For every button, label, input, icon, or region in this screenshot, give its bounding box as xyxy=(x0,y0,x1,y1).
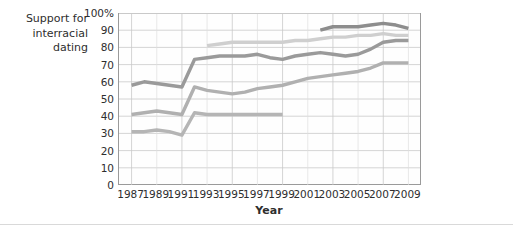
x-tick-label: 1987 xyxy=(117,188,144,200)
footer-rule xyxy=(0,224,513,225)
x-tick-label: 1997 xyxy=(243,188,270,200)
series-lines xyxy=(132,23,409,135)
series-line xyxy=(132,63,409,115)
y-tick-label: 100% xyxy=(62,8,114,19)
x-tick-label: 1995 xyxy=(218,188,245,200)
y-tick-label: 60 xyxy=(62,77,114,88)
y-tick-label: 90 xyxy=(62,25,114,36)
y-tick-label: 50 xyxy=(62,94,114,105)
x-tick-label: 2003 xyxy=(319,188,346,200)
series-line xyxy=(320,23,408,30)
legend xyxy=(424,0,513,227)
x-tick-label: 2009 xyxy=(394,188,421,200)
gridlines xyxy=(119,13,421,185)
plot-area xyxy=(118,13,420,185)
y-tick-label: 80 xyxy=(62,42,114,53)
x-tick-label: 2007 xyxy=(369,188,396,200)
x-tick-label: 1993 xyxy=(193,188,220,200)
x-tick-label: 2005 xyxy=(344,188,371,200)
x-axis-title: Year xyxy=(118,204,420,217)
y-tick-label: 70 xyxy=(62,60,114,71)
y-tick-label: 40 xyxy=(62,111,114,122)
x-tick-label: 1991 xyxy=(168,188,195,200)
y-tick-label: 20 xyxy=(62,146,114,157)
x-tick-label: 1999 xyxy=(268,188,295,200)
x-tick-label: 1989 xyxy=(142,188,169,200)
plot-canvas xyxy=(119,13,421,185)
y-tick-label: 10 xyxy=(62,163,114,174)
y-tick-label: 30 xyxy=(62,128,114,139)
x-tick-label: 2001 xyxy=(293,188,320,200)
figure-root: Support for interracial dating 010203040… xyxy=(0,0,513,227)
